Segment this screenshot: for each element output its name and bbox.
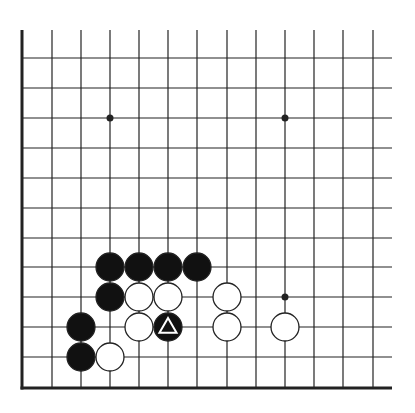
white-stone — [125, 283, 153, 311]
black-stone — [96, 253, 124, 281]
white-stone — [154, 283, 182, 311]
star-point-icon — [282, 115, 289, 122]
black-stone — [125, 253, 153, 281]
white-stone — [213, 313, 241, 341]
white-stone — [125, 313, 153, 341]
star-point-icon — [107, 115, 114, 122]
white-stone — [213, 283, 241, 311]
star-point-icon — [282, 294, 289, 301]
black-stone — [183, 253, 211, 281]
black-stone — [96, 283, 124, 311]
stones-layer — [67, 253, 299, 371]
white-stone — [271, 313, 299, 341]
black-stone — [67, 313, 95, 341]
white-stone — [96, 343, 124, 371]
go-board — [0, 0, 415, 413]
black-stone — [67, 343, 95, 371]
black-stone — [154, 253, 182, 281]
